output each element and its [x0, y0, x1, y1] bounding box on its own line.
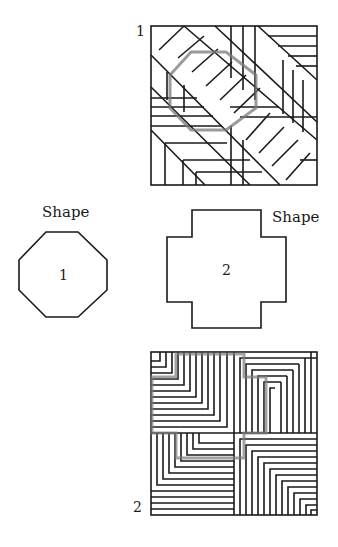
shape-2-cross [167, 210, 286, 328]
shape-1-octagon [19, 232, 107, 317]
puzzle-1-square [151, 26, 317, 185]
diagram-canvas [0, 0, 338, 547]
